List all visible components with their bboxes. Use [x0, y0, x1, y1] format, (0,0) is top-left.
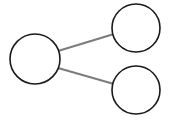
node-child-bottom[interactable]	[112, 66, 160, 114]
node-link-diagram	[0, 0, 169, 120]
node-child-top[interactable]	[112, 4, 160, 52]
node-root[interactable]	[10, 34, 60, 84]
edge-root-to-child-top	[58, 34, 114, 51]
edge-root-to-child-bottom	[58, 68, 114, 84]
diagram-canvas	[0, 0, 169, 120]
